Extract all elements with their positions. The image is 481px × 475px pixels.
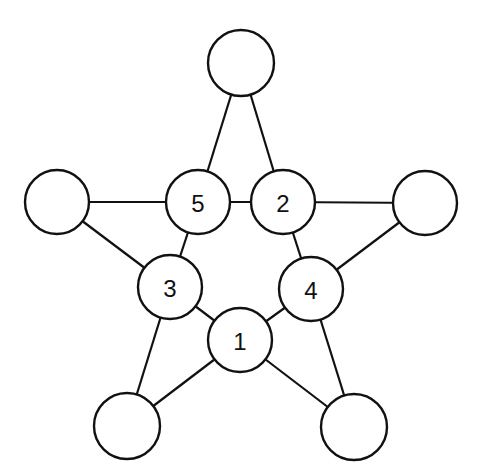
node-n2: 2 (251, 170, 315, 234)
node-n1: 1 (208, 308, 272, 372)
node-right (393, 171, 457, 235)
node-label: 5 (191, 190, 204, 217)
star-graph-diagram: 52341 (0, 0, 481, 475)
node-left (25, 170, 89, 234)
node-top (208, 30, 274, 96)
node-circle (321, 394, 387, 460)
nodes-layer: 52341 (25, 30, 457, 460)
node-n5: 5 (166, 170, 230, 234)
graph-svg: 52341 (0, 0, 481, 475)
node-circle (208, 30, 274, 96)
node-circle (25, 170, 89, 234)
node-circle (393, 171, 457, 235)
node-br (321, 394, 387, 460)
node-label: 4 (304, 277, 317, 304)
node-n4: 4 (279, 257, 343, 321)
node-label: 3 (163, 275, 176, 302)
node-circle (94, 393, 160, 459)
node-n3: 3 (138, 255, 202, 319)
node-label: 1 (233, 328, 246, 355)
node-bl (94, 393, 160, 459)
node-label: 2 (276, 190, 289, 217)
